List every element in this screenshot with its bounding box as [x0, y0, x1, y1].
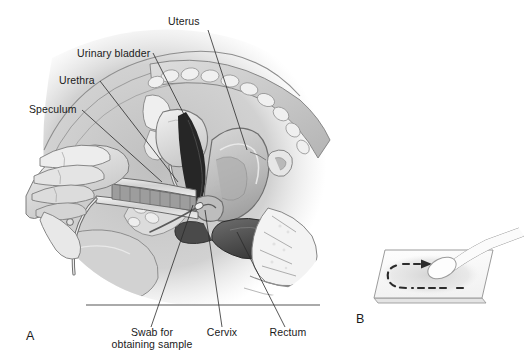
label-rectum: Rectum [270, 326, 307, 338]
panel-letter-b: B [356, 312, 364, 326]
panel-letter-a: A [26, 329, 35, 343]
illustration-canvas: Uterus Urinary bladder Urethra Speculum … [0, 0, 526, 364]
label-cervix: Cervix [207, 326, 238, 338]
label-uterus: Uterus [168, 15, 200, 27]
label-swab-line2: obtaining sample [112, 338, 193, 350]
label-speculum: Speculum [29, 103, 77, 115]
panel-b-illustration: B [356, 228, 524, 326]
figure-root: Uterus Urinary bladder Urethra Speculum … [0, 0, 526, 364]
label-swab-line1: Swab for [131, 326, 174, 338]
label-urinary-bladder: Urinary bladder [77, 47, 151, 59]
panel-a-illustration: Uterus Urinary bladder Urethra Speculum … [20, 10, 350, 350]
speculum-thumbscrew [67, 219, 74, 226]
label-urethra: Urethra [59, 74, 95, 86]
slide-thickness-edge [374, 298, 486, 303]
